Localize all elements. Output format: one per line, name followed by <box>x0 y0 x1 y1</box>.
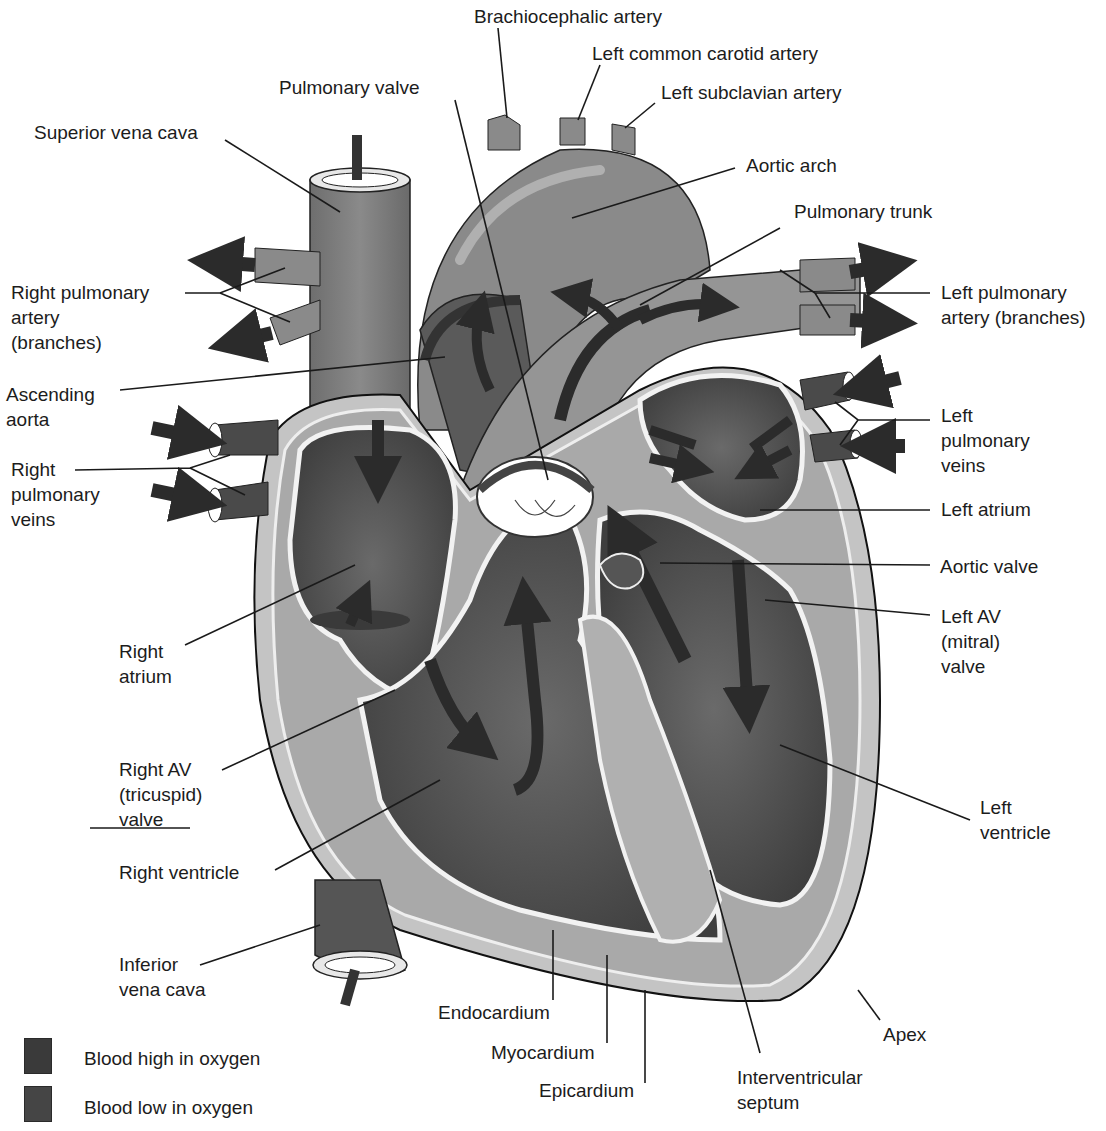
superior-vena-cava <box>310 135 410 433</box>
label-left-pulmonary-artery: Left pulmonary artery (branches) <box>941 280 1086 330</box>
label-epicardium: Epicardium <box>539 1078 634 1103</box>
label-left-pulmonary-veins: Left pulmonary veins <box>941 403 1030 478</box>
label-right-pulmonary-veins: Right pulmonary veins <box>11 457 100 532</box>
label-superior-vena-cava: Superior vena cava <box>34 120 198 145</box>
label-left-av-mitral-valve: Left AV (mitral) valve <box>941 604 1001 679</box>
right-pulmonary-veins <box>152 420 278 522</box>
label-right-av-tricuspid-valve: Right AV (tricuspid) valve <box>119 757 202 832</box>
label-inferior-vena-cava: Inferior vena cava <box>119 952 206 1002</box>
label-left-ventricle: Left ventricle <box>980 795 1051 845</box>
label-right-atrium: Right atrium <box>119 639 172 689</box>
label-right-pulmonary-artery: Right pulmonary artery (branches) <box>11 280 149 355</box>
label-pulmonary-valve: Pulmonary valve <box>279 75 419 100</box>
label-right-ventricle: Right ventricle <box>119 860 239 885</box>
label-aortic-valve: Aortic valve <box>940 554 1038 579</box>
right-pulmonary-artery <box>215 248 320 345</box>
label-brachiocephalic-artery: Brachiocephalic artery <box>474 4 662 29</box>
label-left-subclavian-artery: Left subclavian artery <box>661 80 842 105</box>
label-aortic-arch: Aortic arch <box>746 153 837 178</box>
legend-swatch-low-oxygen <box>24 1086 52 1122</box>
label-left-common-carotid-artery: Left common carotid artery <box>592 41 818 66</box>
label-endocardium: Endocardium <box>438 1000 550 1025</box>
label-pulmonary-trunk: Pulmonary trunk <box>794 199 932 224</box>
label-ascending-aorta: Ascending aorta <box>6 382 95 432</box>
legend-label-low-oxygen: Blood low in oxygen <box>84 1095 253 1120</box>
label-myocardium: Myocardium <box>491 1040 594 1065</box>
legend-label-high-oxygen: Blood high in oxygen <box>84 1046 260 1071</box>
label-apex: Apex <box>883 1022 926 1047</box>
legend-swatch-high-oxygen <box>24 1038 52 1074</box>
label-left-atrium: Left atrium <box>941 497 1031 522</box>
label-interventricular-septum: Interventricular septum <box>737 1065 863 1115</box>
pulmonary-valve <box>477 457 593 537</box>
